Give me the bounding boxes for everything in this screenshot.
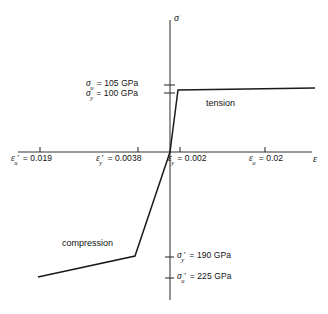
eps-u-tension-equals: =: [259, 153, 264, 163]
eps-u-compression-prime: ′: [17, 153, 19, 163]
sigma-u-compression-label: σu′ = 225 GPa: [177, 272, 232, 284]
sigma-y-compression-equals: =: [189, 250, 194, 260]
sigma-u-compression-value: 225: [197, 271, 211, 281]
eps-u-compression-equals: =: [23, 153, 28, 163]
eps-y-tension-value: 0.002: [185, 153, 207, 163]
compression-region-label: compression: [62, 238, 113, 248]
eps-y-compression-equals: =: [107, 153, 112, 163]
sigma-axis-label: σ: [174, 12, 179, 23]
tension-region-label: tension: [206, 98, 235, 108]
eps-y-tension-subscript: y: [171, 159, 174, 166]
eps-y-compression-value: 0.0038: [115, 153, 142, 163]
epsilon-axis-label: ε: [313, 153, 317, 164]
sigma-u-compression-unit: GPa: [214, 271, 231, 281]
tension-curve: [170, 88, 315, 152]
sigma-y-tension-subscript: y: [90, 94, 93, 101]
sigma-y-compression-label: σy′ = 190 GPa: [177, 251, 231, 263]
sigma-y-compression-value: 190: [197, 250, 211, 260]
sigma-u-tension-equals: =: [97, 78, 102, 88]
sigma-y-tension-unit: GPa: [121, 88, 138, 98]
sigma-u-tension-value: 105: [104, 78, 118, 88]
eps-y-compression-label: εy′ = 0.0038: [96, 154, 142, 166]
sigma-y-compression-unit: GPa: [214, 250, 231, 260]
compression-curve: [38, 152, 170, 277]
sigma-y-tension-value: 100: [104, 88, 118, 98]
eps-y-tension-label: εy = 0.002: [168, 154, 207, 166]
sigma-y-tension-label: σy = 100 GPa: [86, 89, 138, 101]
eps-y-compression-prime: ′: [102, 153, 104, 163]
eps-u-compression-label: εu′ = 0.019: [11, 154, 52, 166]
sigma-y-tension-equals: =: [96, 88, 101, 98]
eps-y-tension-equals: =: [177, 153, 182, 163]
eps-u-tension-label: εu = 0.02: [249, 154, 283, 166]
sigma-u-tension-unit: GPa: [121, 78, 138, 88]
sigma-y-compression-prime: ′: [184, 250, 186, 260]
sigma-u-compression-equals: =: [190, 271, 195, 281]
eps-u-tension-value: 0.02: [266, 153, 283, 163]
stress-strain-diagram: σ ε σu = 105 GPa σy = 100 GPa σy′ = 190 …: [0, 0, 328, 314]
eps-u-compression-value: 0.019: [30, 153, 52, 163]
sigma-u-compression-prime: ′: [184, 271, 186, 281]
eps-u-tension-subscript: u: [252, 159, 255, 166]
